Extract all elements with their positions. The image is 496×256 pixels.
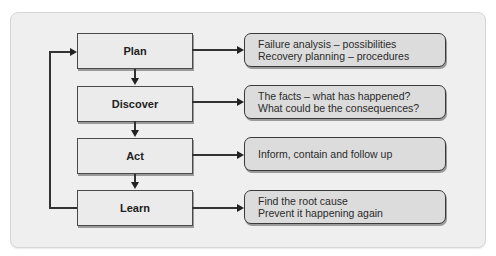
note-line: Find the root cause: [258, 195, 445, 207]
arrow-down-icon: [131, 130, 139, 137]
step-learn: Learn: [77, 190, 193, 226]
connector-line: [192, 207, 238, 209]
arrow-right-icon: [237, 46, 244, 54]
step-plan: Plan: [77, 33, 193, 69]
step-label: Act: [126, 150, 144, 162]
arrow-down-icon: [131, 78, 139, 85]
note-line: Recovery planning – procedures: [258, 50, 445, 62]
connector-line: [192, 49, 238, 51]
step-label: Discover: [112, 98, 158, 110]
note-plan: Failure analysis – possibilities Recover…: [244, 33, 446, 67]
arrow-right-icon: [237, 204, 244, 212]
step-label: Plan: [123, 45, 146, 57]
note-line: Prevent it happening again: [258, 207, 445, 219]
step-act: Act: [77, 138, 193, 174]
note-line: Failure analysis – possibilities: [258, 38, 445, 50]
arrow-down-icon: [131, 182, 139, 189]
connector-line: [192, 101, 238, 103]
note-learn: Find the root cause Prevent it happening…: [244, 190, 446, 224]
note-line: What could be the consequences?: [258, 102, 445, 114]
feedback-line: [49, 51, 51, 208]
connector-line: [192, 154, 238, 156]
arrow-right-icon: [70, 48, 77, 56]
arrow-right-icon: [237, 98, 244, 106]
note-act: Inform, contain and follow up: [244, 137, 446, 171]
arrow-right-icon: [237, 151, 244, 159]
feedback-line: [49, 51, 71, 53]
note-line: Inform, contain and follow up: [258, 148, 445, 160]
note-line: The facts – what has happened?: [258, 90, 445, 102]
note-discover: The facts – what has happened? What coul…: [244, 85, 446, 119]
step-discover: Discover: [77, 86, 193, 122]
feedback-line: [49, 207, 77, 209]
step-label: Learn: [120, 202, 150, 214]
